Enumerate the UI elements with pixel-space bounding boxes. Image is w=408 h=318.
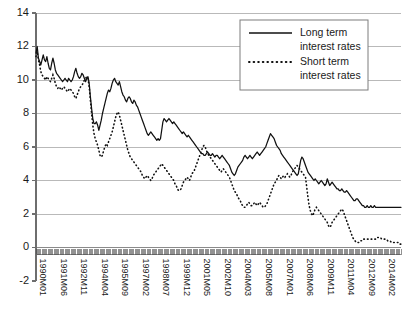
y-tick-label: 6	[23, 140, 29, 152]
x-minor-ticks-group	[36, 249, 401, 255]
x-tick-label: 1997M02	[141, 259, 151, 297]
y-tick-label: 10	[17, 73, 29, 85]
x-tick-label: 2012M09	[367, 259, 377, 297]
x-tick-label: 2005M08	[264, 259, 274, 297]
chart-canvas: -202468101214 1990M011991M061992M111994M…	[0, 0, 408, 318]
y-tick-label: 2	[23, 207, 29, 219]
x-tick-label: 1995M09	[120, 259, 130, 297]
x-tick-label: 2007M01	[285, 259, 295, 297]
legend-label-short-term-line1: Short term	[300, 55, 349, 67]
legend-group: Long terminterest ratesShort terminteres…	[240, 20, 368, 90]
x-tick-label: 1992M11	[79, 259, 89, 296]
y-tick-label: 12	[17, 39, 29, 51]
x-tick-label: 2009M11	[326, 259, 336, 296]
y-tick-label: 0	[23, 240, 29, 252]
x-tick-label: 1998M07	[161, 259, 171, 297]
x-tick-label: 2004M03	[243, 259, 253, 297]
x-tick-label: 2001M05	[202, 259, 212, 297]
x-tick-labels-group: 1990M011991M061992M111994M041995M091997M…	[38, 259, 397, 297]
x-tick-label: 2011M04	[346, 259, 356, 296]
legend-label-long-term-line1: Long term	[300, 26, 348, 38]
y-tick-labels-group: -202468101214	[17, 6, 29, 286]
y-tick-label: 4	[23, 173, 29, 185]
y-tick-label: 14	[17, 6, 29, 18]
x-tick-label: 2008M06	[305, 259, 315, 297]
x-tick-label: 1991M06	[59, 259, 69, 297]
x-tick-label: 2014M02	[387, 259, 397, 297]
y-tick-label: 8	[23, 106, 29, 118]
x-tick-label: 1999M12	[182, 259, 192, 297]
x-tick-label: 1994M04	[100, 259, 110, 297]
x-tick-label: 2002M10	[223, 259, 233, 297]
legend-label-long-term-line2: interest rates	[300, 40, 361, 52]
legend-label-short-term-line2: interest rates	[300, 69, 361, 81]
y-tick-label: -2	[19, 274, 29, 286]
x-tick-label: 1990M01	[38, 259, 48, 297]
interest-rates-chart: -202468101214 1990M011991M061992M111994M…	[0, 0, 408, 318]
